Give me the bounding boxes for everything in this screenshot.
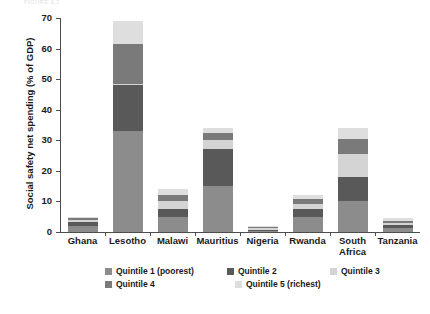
bar-segment [338,139,368,154]
bar-segment [113,44,143,84]
x-axis-label: Tanzania [375,236,420,247]
legend-label: Quintile 3 [341,266,380,276]
x-axis-label-line: Ghana [60,236,105,247]
x-axis-label-line: Tanzania [375,236,420,247]
bar-mauritius [203,128,233,232]
y-tick-label: 10 [28,195,52,206]
bar-segment [113,85,143,131]
bar-segment [293,217,323,232]
x-axis-label-line: Nigeria [240,236,285,247]
y-tick-label: 60 [28,43,52,54]
x-axis-label: Mauritius [195,236,240,247]
bar-segment [203,133,233,141]
y-tick-label: 50 [28,73,52,84]
legend-label: Quintile 4 [116,279,155,289]
bar-segment [293,209,323,217]
bar-segment [158,209,188,217]
chart-legend: Quintile 1 (poorest)Quintile 2Quintile 3… [105,266,405,292]
bar-segment [158,201,188,209]
bar-segment [203,149,233,186]
bar-segment [338,154,368,177]
legend-item[interactable]: Quintile 1 (poorest) [105,266,227,276]
legend-swatch-icon [330,268,337,275]
x-axis-label-line: South [330,236,375,247]
bar-segment [68,226,98,232]
x-axis-label: Malawi [150,236,195,247]
y-tick [56,171,60,172]
bar-ghana [68,217,98,232]
x-axis-label: Lesotho [105,236,150,247]
bar-lesotho [113,21,143,232]
x-axis-label: Ghana [60,236,105,247]
y-tick [56,79,60,80]
figure-header-ghost-text: FIGURE 2.1 [24,0,60,6]
x-axis-label-line: Africa [330,247,375,258]
y-tick-label: 70 [28,12,52,23]
bar-segment [158,217,188,232]
legend-swatch-icon [105,281,112,288]
x-axis-label: Nigeria [240,236,285,247]
bar-segment [383,228,413,232]
bar-malawi [158,189,188,232]
bar-segment [248,231,278,232]
legend-row: Quintile 4Quintile 5 (richest) [105,279,405,291]
plot-area: 010203040506070 GhanaLesothoMalawiMaurit… [60,18,420,232]
y-tick [56,140,60,141]
x-axis-label-line: Malawi [150,236,195,247]
legend-swatch-icon [227,268,234,275]
bar-segment [113,131,143,232]
x-axis-label-line: Lesotho [105,236,150,247]
legend-row: Quintile 1 (poorest)Quintile 2Quintile 3 [105,266,405,278]
chart-figure: FIGURE 2.1 Social safety net spending (%… [0,0,430,314]
y-tick-label: 0 [28,226,52,237]
y-axis-line [60,18,61,232]
legend-item[interactable]: Quintile 5 (richest) [235,279,345,289]
x-axis-label-line: Mauritius [195,236,240,247]
bar-tanzania [383,218,413,232]
x-axis-label: SouthAfrica [330,236,375,257]
bar-segment [203,140,233,149]
y-tick [56,110,60,111]
y-tick [56,232,60,233]
legend-item[interactable]: Quintile 4 [105,279,235,289]
legend-swatch-icon [105,268,112,275]
x-axis-label: Rwanda [285,236,330,247]
y-tick-label: 40 [28,104,52,115]
bar-segment [338,177,368,201]
legend-item[interactable]: Quintile 2 [227,266,330,276]
y-tick [56,18,60,19]
bar-south-africa [338,128,368,232]
legend-label: Quintile 5 (richest) [246,279,321,289]
legend-label: Quintile 2 [238,266,277,276]
y-tick-label: 30 [28,134,52,145]
bar-segment [338,201,368,232]
legend-label: Quintile 1 (poorest) [116,266,194,276]
bar-rwanda [293,195,323,232]
y-tick [56,49,60,50]
bar-nigeria [248,226,278,232]
bar-segment [338,128,368,139]
bar-segment [203,186,233,232]
legend-swatch-icon [235,281,242,288]
legend-item[interactable]: Quintile 3 [330,266,405,276]
y-tick-label: 20 [28,165,52,176]
x-axis-label-line: Rwanda [285,236,330,247]
y-tick [56,201,60,202]
bar-segment [113,21,143,44]
